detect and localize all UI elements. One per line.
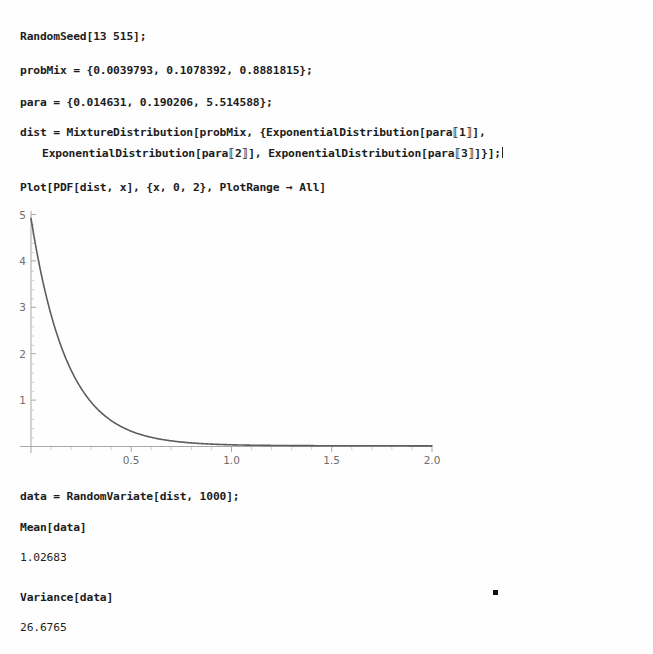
x-tick-label-2-0: 2.0: [424, 454, 441, 466]
code-text-mixture-distribution-2: ExponentialDistribution[para⟦2⟧], Expone…: [42, 147, 501, 160]
x-tick-label-0-5: 0.5: [123, 454, 140, 466]
text-cursor: [502, 147, 503, 158]
pdf-plot: 5 4 3 2 1: [0, 203, 460, 468]
code-line-mixture-distribution-1[interactable]: dist = MixtureDistribution[probMix, {Exp…: [20, 126, 486, 139]
code-line-random-variate[interactable]: data = RandomVariate[dist, 1000];: [20, 490, 240, 503]
code-line-plot[interactable]: Plot[PDF[dist, x], {x, 0, 2}, PlotRange …: [20, 181, 326, 194]
x-tick-label-1-5: 1.5: [323, 454, 340, 466]
pdf-curve-path: [31, 218, 432, 446]
code-line-random-seed[interactable]: RandomSeed[13 515];: [20, 30, 146, 43]
output-variance-value: 26.6765: [20, 621, 67, 634]
y-tick-label-2: 2: [19, 348, 26, 360]
x-tick-label-1-0: 1.0: [223, 454, 240, 466]
y-tick-label-1: 1: [19, 394, 26, 406]
code-line-mixture-distribution-2[interactable]: ExponentialDistribution[para⟦2⟧], Expone…: [42, 147, 503, 160]
plot-output-cell[interactable]: 5 4 3 2 1: [0, 203, 460, 468]
stray-dot-artifact: [493, 590, 498, 595]
output-mean-value: 1.02683: [20, 551, 67, 564]
notebook-canvas: RandomSeed[13 515]; probMix = {0.0039793…: [0, 0, 653, 654]
code-line-prob-mix[interactable]: probMix = {0.0039793, 0.1078392, 0.88818…: [20, 64, 313, 77]
y-tick-label-5: 5: [19, 209, 26, 221]
code-line-variance[interactable]: Variance[data]: [20, 591, 113, 604]
code-line-para[interactable]: para = {0.014631, 0.190206, 5.514588};: [20, 96, 273, 109]
y-tick-label-4: 4: [19, 255, 26, 267]
y-tick-label-3: 3: [19, 301, 26, 313]
code-line-mean[interactable]: Mean[data]: [20, 521, 87, 534]
